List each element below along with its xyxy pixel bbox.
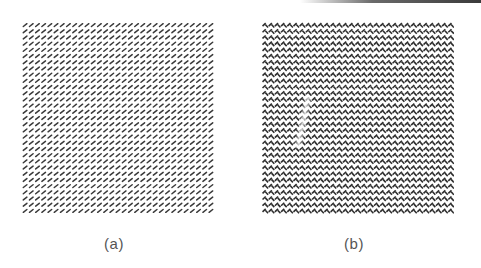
slash-grid-pattern — [22, 22, 214, 214]
panel-caption-a: (a) — [94, 235, 134, 252]
panel-caption-b: (b) — [334, 235, 374, 252]
weave-grid-pattern — [262, 22, 454, 214]
pattern-panel-b — [262, 22, 454, 214]
pattern-panel-a — [22, 22, 214, 214]
top-edge-bar — [300, 0, 481, 3]
